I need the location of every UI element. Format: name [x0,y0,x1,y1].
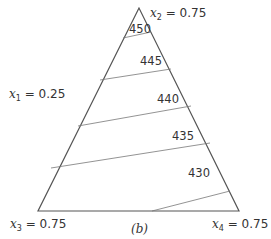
vertex-label-bottom-left: x3 = 0.75 [10,217,66,233]
contour-line-440 [78,106,191,126]
contour-line-430 [152,191,230,211]
contour-label-440: 440 [157,92,179,106]
contour-label-445: 445 [140,54,162,68]
triangle-outline [38,8,239,211]
contour-line-445 [100,69,171,80]
contour-label-450: 450 [129,22,151,36]
contour-line-435 [51,143,210,168]
contour-label-430: 430 [188,166,210,180]
vertex-label-top: x2 = 0.75 [150,6,206,22]
figure-caption: (b) [131,222,148,236]
vertex-label-bottom-right: x4 = 0.75 [212,217,268,233]
side-label-x1: x1 = 0.25 [9,87,65,103]
contour-label-435: 435 [172,129,194,143]
